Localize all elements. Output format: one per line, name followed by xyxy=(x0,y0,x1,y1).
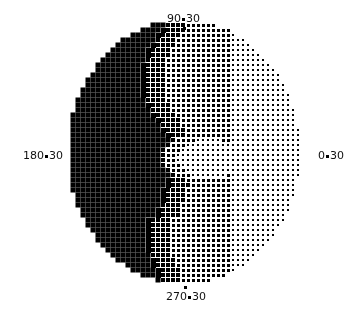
label-180-eccentricity: 30 xyxy=(49,149,63,162)
label-0-degrees: 030 xyxy=(318,150,344,162)
label-270-angle: 270 xyxy=(166,290,187,303)
degree-dot-icon xyxy=(182,18,185,21)
label-180-degrees: 18030 xyxy=(23,150,63,162)
degree-dot-icon xyxy=(188,296,191,299)
label-270-degrees: 27030 xyxy=(166,291,206,303)
label-90-degrees: 9030 xyxy=(167,13,200,25)
label-90-eccentricity: 30 xyxy=(186,12,200,25)
label-0-angle: 0 xyxy=(318,149,325,162)
label-90-angle: 90 xyxy=(167,12,181,25)
label-0-eccentricity: 30 xyxy=(330,149,344,162)
degree-dot-icon xyxy=(45,155,48,158)
label-180-angle: 180 xyxy=(23,149,44,162)
tick-bottom xyxy=(184,286,187,289)
degree-dot-icon xyxy=(326,155,329,158)
tick-top xyxy=(183,27,186,30)
label-270-eccentricity: 30 xyxy=(192,290,206,303)
